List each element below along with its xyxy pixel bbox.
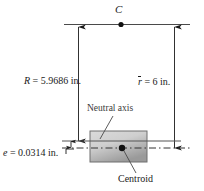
centroid-label: Centroid <box>118 174 153 184</box>
radius-neutral-symbol: R <box>24 75 30 86</box>
neutral-axis-label: Neutral axis <box>87 104 133 114</box>
eccentricity-symbol: e <box>3 147 7 158</box>
figure-drawing <box>0 0 204 191</box>
eccentricity-value: = 0.0314 in. <box>10 147 58 158</box>
radius-centroid-symbol: r <box>138 76 142 87</box>
eccentricity-label: e = 0.0314 in. <box>3 148 58 158</box>
cross-section-rectangle <box>90 131 147 162</box>
radius-centroid-value: = 6 in. <box>144 76 170 87</box>
center-of-curvature-label: C <box>115 4 122 15</box>
center-of-curvature-point <box>118 22 123 27</box>
radius-neutral-value: = 5.9686 in. <box>33 75 81 86</box>
radius-centroid-label: r = 6 in. <box>138 76 170 87</box>
eccentricity-leader <box>66 149 74 154</box>
centroid-point <box>119 145 125 151</box>
radius-neutral-label: R = 5.9686 in. <box>24 76 81 86</box>
curved-beam-figure: C R = 5.9686 in. r = 6 in. Neutral axis … <box>0 0 204 191</box>
